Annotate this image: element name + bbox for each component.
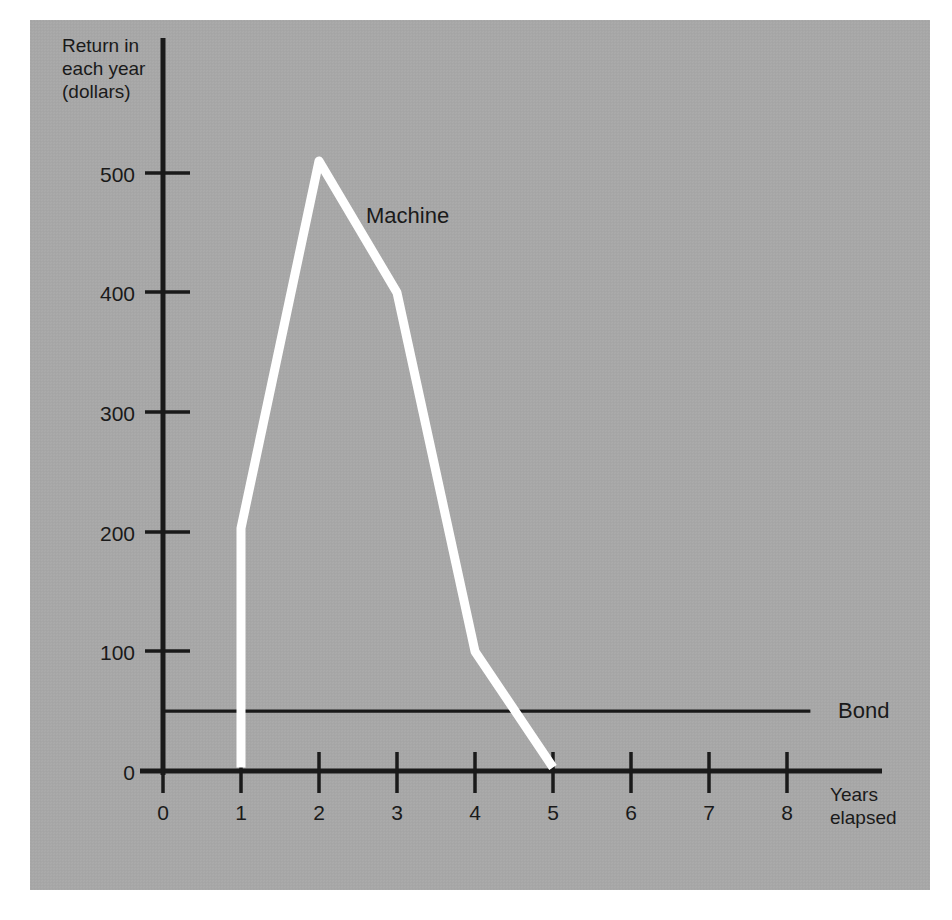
x-tick-label-3: 3 — [367, 800, 427, 826]
x-tick-label-4: 4 — [445, 800, 505, 826]
series-label-machine: Machine — [366, 203, 449, 230]
y-tick-label-200: 200 — [40, 521, 135, 547]
x-tick-label-7: 7 — [679, 800, 739, 826]
x-tick-label-1: 1 — [211, 800, 271, 826]
y-tick-label-0: 0 — [40, 760, 135, 786]
y-axis-ticks — [145, 173, 190, 771]
x-axis-title: Years elapsed — [830, 783, 940, 829]
series-label-bond: Bond — [838, 698, 889, 725]
series-line-machine — [241, 161, 553, 767]
y-tick-label-300: 300 — [40, 401, 135, 427]
y-tick-label-100: 100 — [40, 640, 135, 666]
x-tick-label-0: 0 — [133, 800, 193, 826]
x-tick-label-6: 6 — [601, 800, 661, 826]
y-tick-label-400: 400 — [40, 281, 135, 307]
y-tick-label-500: 500 — [40, 162, 135, 188]
y-axis-title: Return in each year (dollars) — [62, 34, 202, 104]
x-tick-label-2: 2 — [289, 800, 349, 826]
x-tick-label-5: 5 — [523, 800, 583, 826]
chart-figure: 500 400 300 200 100 0 0 1 2 3 4 5 6 7 8 … — [0, 0, 952, 920]
x-tick-label-8: 8 — [757, 800, 817, 826]
chart-plot-area — [0, 0, 952, 920]
